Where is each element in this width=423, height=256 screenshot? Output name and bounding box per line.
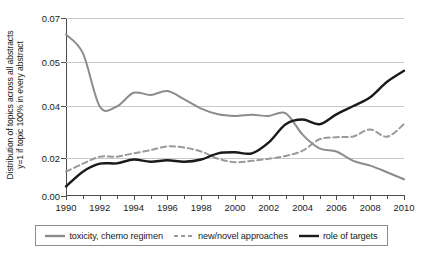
plot-area xyxy=(66,18,404,196)
y-axis-tick-label: 0.00 xyxy=(42,191,60,202)
legend-label: toxicity, chemo regimen xyxy=(69,231,163,241)
x-axis-tick-label: 2010 xyxy=(394,202,415,213)
legend-swatch-icon xyxy=(174,232,194,240)
y-axis-title-line2: y=1 if topic 100% in every abstract xyxy=(15,41,25,169)
y-axis-tick-label: 0.02 xyxy=(42,153,60,164)
y-axis-tick-label: 0.07 xyxy=(42,13,60,24)
legend-swatch-icon xyxy=(299,232,319,240)
x-axis-tick-label: 1994 xyxy=(123,202,144,213)
x-axis-tick-label: 2004 xyxy=(292,202,313,213)
legend-item[interactable]: new/novel approaches xyxy=(174,231,288,241)
legend-label: new/novel approaches xyxy=(198,231,288,241)
x-axis-tick-label: 2006 xyxy=(326,202,347,213)
x-axis-tick-label: 1990 xyxy=(56,202,77,213)
y-axis-tick-label: 0.05 xyxy=(42,57,60,68)
x-axis-tick-label: 1998 xyxy=(191,202,212,213)
chart-figure: Distribution of topics across all abstra… xyxy=(0,0,423,256)
y-axis-title-line1: Distribution of topics across all abstra… xyxy=(5,30,15,179)
legend-label: role of targets xyxy=(323,231,378,241)
x-axis-tick xyxy=(404,195,405,200)
series-line xyxy=(66,124,404,171)
y-axis-title: Distribution of topics across all abstra… xyxy=(0,0,30,210)
x-axis-tick-label: 2002 xyxy=(258,202,279,213)
x-axis-tick-label: 2000 xyxy=(225,202,246,213)
x-axis-tick-label: 1996 xyxy=(157,202,178,213)
y-axis-tick-label: 0.04 xyxy=(42,101,60,112)
chart-legend: toxicity, chemo regimennew/novel approac… xyxy=(35,225,388,246)
legend-swatch-icon xyxy=(45,232,65,240)
x-axis-tick-label: 2008 xyxy=(360,202,381,213)
legend-item[interactable]: role of targets xyxy=(299,231,378,241)
series-lines xyxy=(66,18,404,196)
x-axis-tick-label: 1992 xyxy=(89,202,110,213)
legend-item[interactable]: toxicity, chemo regimen xyxy=(45,231,163,241)
series-line xyxy=(66,71,404,187)
